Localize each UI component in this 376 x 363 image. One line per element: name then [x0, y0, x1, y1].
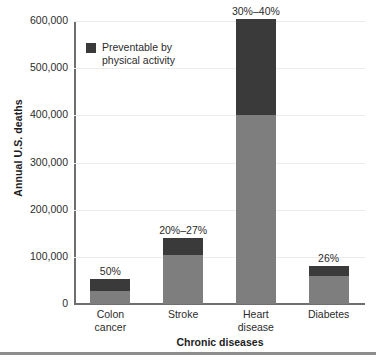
- x-tick-label-line: Stroke: [147, 308, 220, 321]
- bar-colon-cancer: 50%: [90, 279, 130, 304]
- gridline: [74, 210, 365, 211]
- x-tick-label: Heartdisease: [220, 308, 293, 333]
- y-tick-label: 400,000: [0, 108, 68, 120]
- bar-segment-preventable: [236, 19, 276, 116]
- y-tick-label: 600,000: [0, 14, 68, 26]
- x-tick-label: Coloncancer: [74, 308, 147, 333]
- bar-value-label: 50%: [100, 265, 121, 277]
- bar-segment-preventable: [163, 238, 203, 255]
- legend-label-line-1: Preventable: [102, 41, 158, 53]
- x-tick-label: Stroke: [147, 308, 220, 321]
- bar-value-label: 26%: [318, 252, 339, 264]
- y-tick-label: 300,000: [0, 156, 68, 168]
- x-tick-label-line: disease: [220, 321, 293, 334]
- legend: Preventable by physical activity: [86, 41, 182, 66]
- chart-figure: Annual U.S. deaths 50%20%–27%30%–40%26% …: [0, 0, 376, 363]
- gridline: [74, 68, 365, 69]
- y-tick-label: 100,000: [0, 250, 68, 262]
- y-axis-title: Annual U.S. deaths: [12, 78, 24, 218]
- x-tick-label-line: Colon: [74, 308, 147, 321]
- x-tick-label: Diabetes: [292, 308, 365, 321]
- x-tick-label-line: cancer: [74, 321, 147, 334]
- gridline: [74, 163, 365, 164]
- bar-diabetes: 26%: [309, 266, 349, 304]
- gridline: [74, 115, 365, 116]
- legend-label-preventable: Preventable by physical activity: [102, 41, 182, 66]
- bar-segment-preventable: [309, 266, 349, 276]
- x-tick-label-line: Diabetes: [292, 308, 365, 321]
- y-tick-label: 200,000: [0, 203, 68, 215]
- legend-label-line-3: activity: [143, 54, 175, 66]
- x-axis-title: Chronic diseases: [74, 336, 366, 348]
- bottom-divider: [0, 352, 376, 355]
- bar-segment-not-preventable: [163, 255, 203, 304]
- legend-swatch-preventable: [86, 43, 96, 53]
- bar-stroke: 20%–27%: [163, 238, 203, 304]
- bar-value-label: 20%–27%: [159, 224, 207, 236]
- x-tick-label-line: Heart: [220, 308, 293, 321]
- bar-segment-not-preventable: [90, 291, 130, 304]
- bar-segment-not-preventable: [309, 276, 349, 304]
- y-tick-label: 0: [0, 297, 68, 309]
- bar-heart-disease: 30%–40%: [236, 19, 276, 304]
- bar-segment-preventable: [90, 279, 130, 291]
- gridline: [74, 21, 365, 22]
- bar-segment-not-preventable: [236, 115, 276, 304]
- y-tick-label: 500,000: [0, 61, 68, 73]
- bar-value-label: 30%–40%: [232, 5, 280, 17]
